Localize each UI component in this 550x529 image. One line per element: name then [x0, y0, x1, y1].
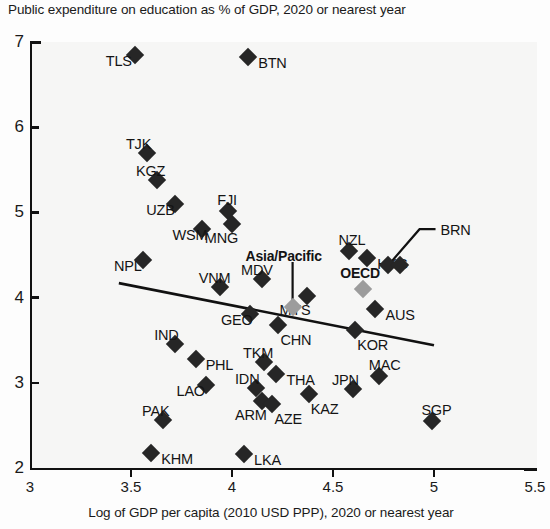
data-point-label: LAO — [177, 384, 205, 399]
data-point-label: VNM — [199, 271, 231, 286]
data-point-label: TJK — [126, 137, 151, 152]
y-axis-tick-label: 2 — [0, 458, 24, 478]
y-axis-tick-label: 7 — [0, 32, 24, 52]
y-axis-tick — [30, 126, 39, 129]
x-axis-tick — [130, 468, 133, 477]
x-axis-tick-label: 4.5 — [313, 478, 353, 495]
data-point-label: TKM — [243, 346, 273, 361]
data-point-label: KGZ — [136, 164, 165, 179]
data-point-label: CHN — [280, 333, 311, 348]
data-point-label: PAK — [142, 404, 169, 419]
x-axis-tick-label: 3.5 — [111, 478, 151, 495]
x-axis-title: Log of GDP per capita (2010 USD PPP), 20… — [0, 505, 542, 520]
data-point-label: NZL — [339, 233, 366, 248]
x-axis-right-cap — [524, 468, 537, 471]
data-point-label: JPN — [332, 373, 359, 388]
data-point-label: KAZ — [311, 402, 339, 417]
data-point-label: TLS — [106, 54, 132, 69]
data-point-label: MNG — [205, 231, 238, 246]
data-point-label: FJI — [217, 193, 237, 208]
y-axis-top-cap — [30, 41, 41, 44]
data-point-label: PHL — [206, 358, 234, 373]
data-point-label: BRN — [441, 223, 471, 238]
data-point-label: MAC — [369, 358, 401, 373]
data-point-label: KHM — [161, 452, 193, 467]
y-axis-tick-label: 3 — [0, 373, 24, 393]
data-point-label: BTN — [258, 56, 286, 71]
data-point-label: KOR — [357, 338, 388, 353]
x-axis-tick-label: 5 — [414, 478, 454, 495]
data-point-label: AUS — [385, 308, 414, 323]
data-point-label: ARM — [235, 408, 267, 423]
x-axis-tick — [332, 468, 335, 477]
y-axis-tick-label: 5 — [0, 202, 24, 222]
x-axis-tick-label: 3 — [10, 478, 50, 495]
data-point-label: SGP — [421, 403, 451, 418]
y-axis-tick — [30, 211, 39, 214]
y-axis-tick-label: 6 — [0, 117, 24, 137]
data-point-label: Asia/Pacific — [246, 249, 322, 263]
chart-title: Public expenditure on education as % of … — [8, 2, 406, 17]
x-axis-tick — [433, 468, 436, 477]
y-axis-tick — [30, 382, 39, 385]
data-point-label: IDN — [235, 372, 259, 387]
x-axis-tick — [231, 468, 234, 477]
data-point-label: OECD — [340, 266, 380, 280]
data-point-label: MDV — [241, 263, 273, 278]
data-point-label: IND — [154, 328, 178, 343]
y-axis-tick — [30, 296, 39, 299]
y-axis-tick-label: 4 — [0, 288, 24, 308]
x-axis-tick-label: 4 — [212, 478, 252, 495]
data-point-label: GEO — [221, 313, 253, 328]
data-point-label: AZE — [274, 412, 302, 427]
x-axis-tick-label: 5.5 — [515, 478, 550, 495]
data-point-label: LKA — [254, 453, 281, 468]
data-point-label: NPL — [114, 259, 142, 274]
data-point-label: WSM — [173, 228, 208, 243]
data-point-label: UZB — [146, 203, 174, 218]
